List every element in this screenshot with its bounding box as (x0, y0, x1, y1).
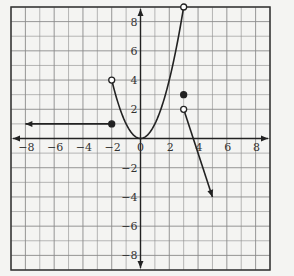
piecewise-function-graph: −8−6−4−2024688642−2−4−6−8 (0, 0, 294, 276)
y-tick-label: 4 (131, 74, 138, 87)
x-tick-label: 6 (224, 141, 231, 154)
parabola-curve (112, 7, 184, 139)
x-axis-right-arrow-icon (261, 136, 268, 142)
y-tick-label: −8 (121, 249, 137, 262)
y-axis-down-arrow-icon (138, 261, 144, 268)
y-tick-label: 2 (131, 103, 138, 116)
graph-canvas: −8−6−4−2024688642−2−4−6−8 (0, 0, 294, 276)
x-tick-label: 0 (137, 141, 144, 154)
y-tick-label: −2 (121, 162, 137, 175)
right-ray-arrow-icon (207, 189, 213, 197)
x-tick-label: −8 (18, 141, 34, 154)
right-ray-endpoint (181, 106, 187, 112)
y-tick-label: −6 (121, 220, 137, 233)
left-ray-endpoint (109, 121, 115, 127)
y-tick-label: 6 (131, 45, 138, 58)
y-axis-up-arrow-icon (138, 9, 144, 16)
x-tick-label: 2 (167, 141, 174, 154)
x-tick-label: −6 (47, 141, 63, 154)
y-tick-label: −4 (121, 191, 137, 204)
left-ray-arrow-icon (25, 121, 32, 127)
x-tick-label: 8 (253, 141, 260, 154)
x-tick-label: −2 (105, 141, 121, 154)
y-tick-label: 8 (131, 16, 138, 29)
parabola-start-endpoint (109, 77, 115, 83)
x-tick-label: −4 (76, 141, 92, 154)
parabola-end-endpoint (181, 4, 187, 10)
isolated-point (181, 92, 187, 98)
